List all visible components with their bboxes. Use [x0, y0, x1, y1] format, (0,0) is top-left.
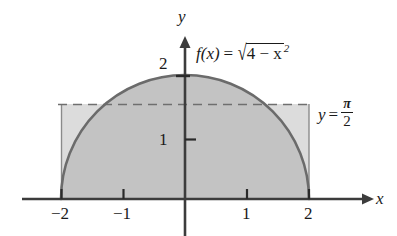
- fraction-denominator: 2: [341, 113, 353, 129]
- radicand: 4 − x: [246, 43, 284, 63]
- x-axis-arrow: [362, 194, 374, 205]
- function-name: f(x): [196, 44, 220, 63]
- x-tick-label-1: 1: [242, 205, 251, 222]
- fraction-numerator: π: [341, 97, 353, 112]
- function-equals: =: [220, 44, 238, 63]
- y-axis-label: y: [178, 8, 186, 25]
- x-axis-label: x: [376, 190, 384, 207]
- level-line-label: y = π 2: [318, 98, 353, 130]
- y-tick-label-2: 2: [159, 55, 168, 72]
- level-variable: y: [318, 106, 326, 123]
- radical-sign: √: [238, 42, 247, 64]
- radicand-exponent: 2: [284, 42, 290, 54]
- y-axis-arrow: [180, 36, 191, 48]
- x-tick-label--2: −2: [51, 205, 69, 222]
- level-equals: =: [329, 106, 339, 123]
- x-tick-label-2: 2: [304, 205, 313, 222]
- function-expression-label: f(x)=√4 − x2: [196, 43, 289, 62]
- x-tick-label--1: −1: [113, 205, 131, 222]
- pi-over-two-fraction: π 2: [341, 97, 353, 129]
- y-tick-label-1: 1: [159, 131, 168, 148]
- figure-canvas: f(x)=√4 − x2 y = π 2 −2 −1 1 2 1 2 y x: [0, 0, 397, 236]
